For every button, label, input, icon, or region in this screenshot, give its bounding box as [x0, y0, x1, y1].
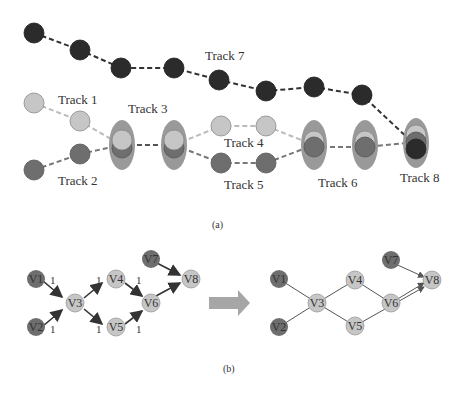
caption-b: (b) [223, 363, 235, 375]
node-v7: V7 [384, 253, 399, 267]
svg-text:1: 1 [50, 274, 56, 286]
node-v3: V3 [68, 296, 83, 310]
panel-b-left-graph: 1 1 1 1 1 1 V1 V2 V3 V4 V5 V6 V7 V8 [27, 250, 200, 336]
track-2-label: Track 2 [58, 173, 98, 188]
node-v4: V4 [348, 273, 363, 287]
track-1-label: Track 1 [58, 92, 98, 107]
svg-text:1: 1 [50, 323, 56, 335]
track-4-label: Track 4 [224, 135, 264, 150]
panel-b-right-graph: V1 V2 V3 V4 V5 V6 V7 V8 [270, 251, 441, 336]
track-6-label: Track 6 [318, 175, 358, 190]
node-v8: V8 [425, 273, 440, 287]
caption-a: (a) [212, 219, 223, 231]
edge-weights: 1 1 1 1 1 1 [50, 274, 142, 335]
merge-ellipse-1 [109, 120, 135, 170]
node-v6: V6 [144, 296, 159, 310]
svg-text:1: 1 [96, 274, 102, 286]
merge-ellipse-2 [161, 120, 187, 170]
node-v7: V7 [144, 252, 159, 266]
node-v2: V2 [272, 320, 287, 334]
node-v1: V1 [272, 272, 287, 286]
node-v4: V4 [109, 272, 124, 286]
node-v6: V6 [384, 296, 399, 310]
merge-ellipse-3 [301, 120, 327, 170]
svg-text:1: 1 [136, 323, 142, 335]
node-v5: V5 [109, 320, 124, 334]
track-8-label: Track 8 [400, 170, 440, 185]
svg-text:1: 1 [96, 323, 102, 335]
node-v5: V5 [348, 319, 363, 333]
node-v1: V1 [29, 272, 44, 286]
node-v8: V8 [184, 272, 199, 286]
tracking-diagram: Track 1 Track 2 Track 3 Track 4 Track 5 … [0, 0, 465, 394]
track-5-label: Track 5 [224, 177, 264, 192]
track-3-label: Track 3 [128, 101, 168, 116]
svg-text:1: 1 [136, 274, 142, 286]
merge-ellipse-5 [403, 118, 429, 168]
transform-arrow-icon [209, 290, 250, 316]
node-v2: V2 [29, 320, 44, 334]
panel-a: Track 1 Track 2 Track 3 Track 4 Track 5 … [24, 23, 440, 231]
track-7-label: Track 7 [205, 48, 245, 63]
node-v3: V3 [310, 296, 325, 310]
merge-ellipse-4 [352, 120, 378, 170]
